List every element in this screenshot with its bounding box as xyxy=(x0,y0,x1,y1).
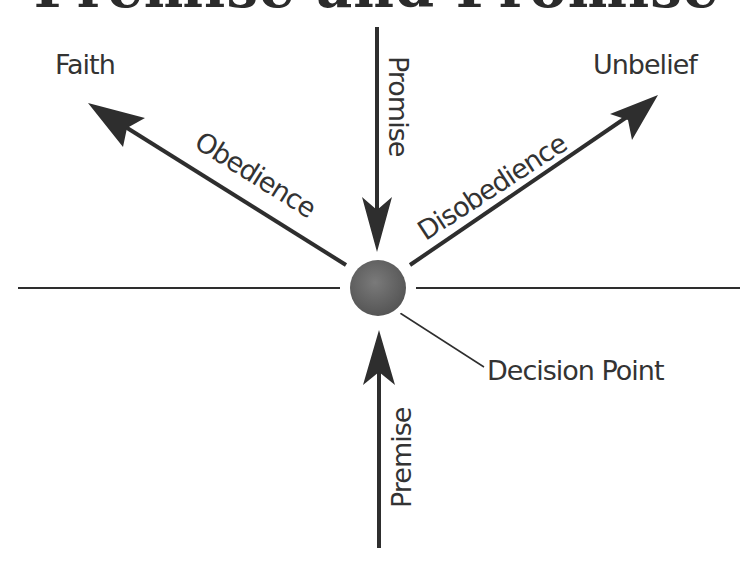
decision-point-leader xyxy=(400,313,484,367)
obedience-arrow xyxy=(88,103,346,265)
decision-point-label: Decision Point xyxy=(487,357,664,384)
disobedience-arrow xyxy=(410,95,658,265)
faith-label: Faith xyxy=(55,51,115,78)
promise-label: Promise xyxy=(385,56,412,156)
diagram-canvas: Premise and Promise xyxy=(0,0,753,573)
diagram-graphics xyxy=(0,0,753,573)
unbelief-label: Unbelief xyxy=(593,51,697,78)
premise-label: Premise xyxy=(388,408,415,508)
